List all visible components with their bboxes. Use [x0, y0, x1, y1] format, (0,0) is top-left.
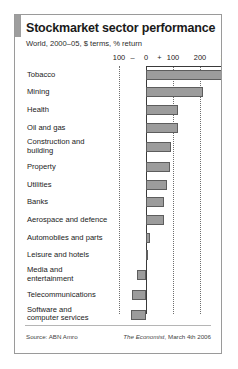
bar	[137, 270, 146, 280]
bar	[146, 180, 167, 190]
chart-row: Software and computer services	[15, 304, 221, 326]
category-label: Leisure and hotels	[27, 251, 119, 260]
bar	[146, 162, 170, 172]
chart-row: Tobacco	[15, 66, 221, 84]
credit-brand: The Economist	[123, 333, 164, 340]
category-label: Media and entertainment	[27, 266, 119, 283]
x-tick-label-2: 100	[167, 53, 179, 62]
bar-rows: TobaccoMiningHealthOil and gasConstructi…	[15, 66, 221, 326]
bar	[131, 310, 146, 320]
axis-positive-sign: +	[157, 53, 161, 62]
bar	[132, 290, 146, 300]
chart-row: Leisure and hotels	[15, 246, 221, 264]
chart-row: Utilities	[15, 176, 221, 194]
category-label: Automobiles and parts	[27, 233, 119, 242]
bar	[146, 233, 150, 243]
category-label: Health	[27, 106, 119, 115]
credit-date: , March 4th 2006	[165, 333, 211, 340]
credit-label: The Economist, March 4th 2006	[123, 333, 211, 340]
page-title: Stockmarket sector performance	[26, 21, 215, 35]
x-tick-label-1: 0	[144, 53, 148, 62]
bar	[146, 250, 148, 260]
category-label: Property	[27, 163, 119, 172]
chart-subtitle: World, 2000–05, $ terms, % return	[26, 39, 142, 48]
plot-area: 1000100200300–+ TobaccoMiningHealthOil a…	[15, 53, 221, 318]
category-label: Utilities	[27, 180, 119, 189]
bar	[146, 105, 178, 115]
category-label: Construction and building	[27, 139, 119, 156]
category-label: Telecommunications	[27, 290, 119, 299]
bar	[146, 123, 178, 133]
source-label: Source: ABN Amro	[26, 333, 78, 340]
bar	[146, 197, 164, 207]
category-label: Mining	[27, 88, 119, 97]
chart-row: Oil and gas	[15, 119, 221, 137]
chart-row: Aerospace and defence	[15, 211, 221, 229]
chart-row: Health	[15, 101, 221, 119]
chart-row: Automobiles and parts	[15, 229, 221, 247]
chart-row: Mining	[15, 84, 221, 102]
accent-block	[15, 15, 21, 37]
chart-row: Construction and building	[15, 136, 221, 158]
chart-row: Telecommunications	[15, 286, 221, 304]
axis-negative-sign: –	[130, 53, 134, 62]
chart-card: Stockmarket sector performance World, 20…	[14, 14, 222, 354]
x-tick-label-3: 200	[194, 53, 206, 62]
chart-row: Banks	[15, 194, 221, 212]
category-label: Banks	[27, 198, 119, 207]
bar	[146, 142, 171, 152]
bar	[146, 215, 164, 225]
x-axis-tick-labels: 1000100200300–+	[15, 53, 221, 65]
x-tick-label-0: 100	[113, 53, 125, 62]
bar	[146, 70, 222, 80]
bar	[146, 87, 203, 97]
category-label: Tobacco	[27, 71, 119, 80]
footer-divider	[25, 325, 211, 326]
x-tick-label-4: 300	[221, 53, 222, 62]
category-label: Aerospace and defence	[27, 216, 119, 225]
category-label: Software and computer services	[27, 306, 119, 323]
chart-row: Property	[15, 158, 221, 176]
category-label: Oil and gas	[27, 123, 119, 132]
chart-row: Media and entertainment	[15, 264, 221, 286]
